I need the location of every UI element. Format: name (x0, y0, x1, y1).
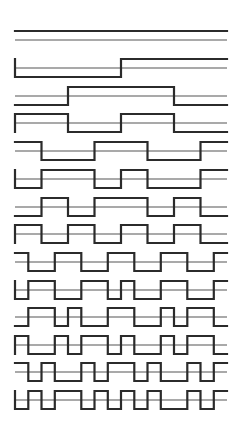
waveform-row (15, 363, 227, 381)
waveform-row (15, 253, 227, 271)
waveform-row (15, 281, 227, 299)
waveform-row (15, 114, 227, 132)
waveform-row (15, 198, 227, 216)
waveform-row (15, 87, 227, 105)
waveform-row (15, 142, 227, 160)
waveform-row (15, 308, 227, 326)
waveform-row (15, 31, 227, 40)
waveform-row (15, 336, 227, 354)
waveform-row (15, 59, 227, 77)
waveform-rows (15, 31, 227, 409)
waveform-row (15, 170, 227, 188)
waveform-row (15, 391, 227, 409)
waveform-row (15, 225, 227, 243)
walsh-functions-diagram (0, 0, 246, 440)
